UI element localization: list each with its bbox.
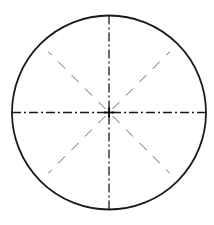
diagonal-315 <box>113 52 170 109</box>
center-cross-mark <box>104 108 114 118</box>
diagonal-135 <box>48 116 105 173</box>
circle-centerline-diagram <box>0 0 214 225</box>
diagonal-225 <box>48 52 105 109</box>
diagonal-45 <box>113 116 170 173</box>
